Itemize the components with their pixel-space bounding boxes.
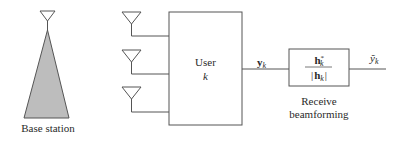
- h-norm-subscript: k: [320, 74, 324, 83]
- beamformer-label-line2: beamforming: [279, 108, 359, 120]
- beamformer-numerator: h*k: [289, 52, 349, 70]
- antenna-icon: [122, 87, 141, 99]
- user-label: User: [169, 56, 242, 68]
- user-block: [169, 12, 242, 125]
- antenna-icon: [122, 50, 141, 62]
- beamformer-label-line1: Receive: [279, 95, 359, 107]
- user-antennas: [122, 12, 169, 112]
- user-index-label: k: [169, 70, 242, 82]
- ytilde-subscript: k: [375, 57, 379, 66]
- base-station-label: Base station: [12, 122, 84, 134]
- base-station: [24, 11, 69, 118]
- yk-subscript: k: [263, 61, 267, 70]
- h-subscript: k: [320, 59, 324, 68]
- output-label: ỹk: [370, 52, 378, 68]
- base-station-antenna-icon: [40, 11, 55, 21]
- base-station-tower-icon: [24, 30, 69, 118]
- beamformer-denominator: | hk |: [289, 69, 349, 85]
- antenna-icon: [122, 12, 141, 24]
- yk-label: yk: [257, 56, 266, 72]
